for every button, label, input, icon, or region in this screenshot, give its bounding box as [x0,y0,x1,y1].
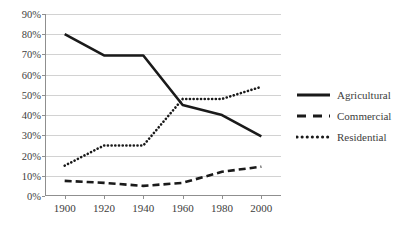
y-axis-tick-label: 30% [22,130,41,141]
x-axis-tick-label: 1980 [211,202,233,214]
legend-swatch-solid-icon [296,90,331,100]
y-axis-tick-mark [42,196,45,197]
legend-label: Residential [337,131,387,143]
x-axis-tick-mark [104,196,105,199]
y-axis-tick-label: 20% [22,150,41,161]
y-axis-tick-label: 40% [22,110,41,121]
series-line-commercial [65,167,262,186]
x-axis-tick-mark [261,196,262,199]
x-axis-tick-label: 1960 [172,202,194,214]
x-axis-tick-mark [222,196,223,199]
series-lines [45,14,281,196]
x-axis-tick-label: 1920 [93,202,115,214]
y-axis-tick-label: 70% [22,49,41,60]
y-axis-tick-label: 50% [22,89,41,100]
legend-swatch-dotted-icon [296,132,331,142]
legend-label: Commercial [337,110,391,122]
legend: AgriculturalCommercialResidential [296,84,401,147]
series-line-residential [65,87,262,166]
chart-title [0,0,290,2]
plot-area: 0%10%20%30%40%50%60%70%80%90% 1900192019… [45,14,281,196]
x-axis-tick-label: 1900 [54,202,76,214]
legend-item-commercial[interactable]: Commercial [296,105,401,126]
x-axis-tick-mark [183,196,184,199]
x-axis-tick-mark [143,196,144,199]
x-axis-tick-mark [65,196,66,199]
x-axis-tick-label: 2000 [250,202,272,214]
x-axis-tick-label: 1940 [132,202,154,214]
y-axis-tick-label: 10% [22,170,41,181]
legend-swatch-dashed-icon [296,111,331,121]
legend-item-agricultural[interactable]: Agricultural [296,84,401,105]
line-chart: 0%10%20%30%40%50%60%70%80%90% 1900192019… [0,0,401,226]
y-axis-tick-label: 0% [27,191,41,202]
legend-item-residential[interactable]: Residential [296,126,401,147]
y-axis-tick-label: 80% [22,29,41,40]
y-axis-tick-label: 60% [22,69,41,80]
y-axis-tick-label: 90% [22,9,41,20]
legend-label: Agricultural [337,89,391,101]
